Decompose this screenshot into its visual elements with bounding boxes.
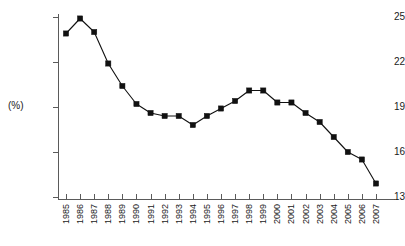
x-tick-label: 1986	[75, 204, 85, 224]
x-tick-label: 1997	[230, 204, 240, 224]
x-tick-mark	[320, 194, 321, 200]
data-point-marker	[63, 31, 68, 36]
x-tick-mark	[362, 194, 363, 200]
x-tick-mark	[108, 194, 109, 200]
data-point-marker	[373, 181, 378, 186]
x-tick-mark	[376, 194, 377, 200]
x-tick-mark	[151, 194, 152, 200]
x-tick-mark	[207, 194, 208, 200]
x-tick-mark	[122, 194, 123, 200]
x-tick-label: 2005	[343, 204, 353, 224]
x-tick-label: 1992	[160, 204, 170, 224]
y-tick-mark	[53, 17, 59, 18]
data-point-marker	[303, 110, 308, 115]
x-tick-label: 1991	[146, 204, 156, 224]
x-tick-label: 1995	[202, 204, 212, 224]
x-tick-label: 2006	[357, 204, 367, 224]
x-tick-label: 1996	[216, 204, 226, 224]
x-tick-label: 2004	[329, 204, 339, 224]
data-point-marker	[345, 149, 350, 154]
series-line	[66, 19, 376, 184]
y-tick-label: 19	[359, 102, 405, 112]
y-tick-mark	[53, 152, 59, 153]
data-point-marker	[176, 113, 181, 118]
data-point-marker	[134, 101, 139, 106]
x-tick-label: 1993	[174, 204, 184, 224]
x-tick-mark	[94, 194, 95, 200]
data-point-marker	[204, 113, 209, 118]
data-point-marker	[247, 88, 252, 93]
data-point-marker	[218, 106, 223, 111]
x-tick-mark	[80, 194, 81, 200]
x-tick-label: 1999	[258, 204, 268, 224]
x-tick-label: 2002	[301, 204, 311, 224]
data-point-marker	[106, 61, 111, 66]
x-tick-mark	[348, 194, 349, 200]
data-point-marker	[190, 122, 195, 127]
y-tick-mark	[53, 107, 59, 108]
x-tick-mark	[306, 194, 307, 200]
x-tick-label: 1988	[103, 204, 113, 224]
x-tick-mark	[334, 194, 335, 200]
x-tick-mark	[263, 194, 264, 200]
y-tick-label: 22	[359, 57, 405, 67]
x-tick-label: 2001	[286, 204, 296, 224]
x-tick-label: 1998	[244, 204, 254, 224]
x-tick-mark	[221, 194, 222, 200]
x-tick-mark	[66, 194, 67, 200]
x-tick-label: 1994	[188, 204, 198, 224]
series-markers	[63, 16, 378, 186]
data-point-marker	[162, 113, 167, 118]
x-tick-mark	[249, 194, 250, 200]
x-tick-label: 1990	[131, 204, 141, 224]
data-point-marker	[232, 98, 237, 103]
data-point-marker	[275, 100, 280, 105]
data-point-marker	[359, 157, 364, 162]
data-point-marker	[317, 119, 322, 124]
x-tick-mark	[165, 194, 166, 200]
y-tick-mark	[53, 197, 59, 198]
chart-figure: (%) 1316192225 1985198619871988198919901…	[0, 0, 405, 246]
x-tick-mark	[193, 194, 194, 200]
data-point-marker	[120, 83, 125, 88]
data-point-marker	[92, 29, 97, 34]
data-point-marker	[148, 110, 153, 115]
y-tick-label: 25	[359, 12, 405, 22]
y-tick-label: 16	[359, 147, 405, 157]
data-point-marker	[261, 88, 266, 93]
x-tick-label: 2007	[371, 204, 381, 224]
data-point-marker	[289, 100, 294, 105]
x-tick-mark	[179, 194, 180, 200]
data-point-marker	[331, 134, 336, 139]
x-tick-mark	[291, 194, 292, 200]
x-tick-label: 1989	[117, 204, 127, 224]
x-tick-mark	[136, 194, 137, 200]
x-tick-label: 1985	[61, 204, 71, 224]
x-tick-label: 2003	[315, 204, 325, 224]
data-point-marker	[77, 16, 82, 21]
x-tick-label: 2000	[272, 204, 282, 224]
y-tick-label: 13	[359, 192, 405, 202]
y-axis-title: (%)	[8, 101, 24, 111]
y-tick-mark	[53, 62, 59, 63]
x-tick-label: 1987	[89, 204, 99, 224]
x-tick-mark	[277, 194, 278, 200]
x-tick-mark	[235, 194, 236, 200]
